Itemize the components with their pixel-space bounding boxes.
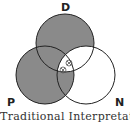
diagram-caption: Traditional Interpretation: [0, 110, 130, 123]
venn-diagram: [0, 0, 130, 123]
label-d: D: [61, 2, 70, 13]
label-n: N: [115, 97, 124, 108]
label-p: P: [7, 97, 15, 108]
